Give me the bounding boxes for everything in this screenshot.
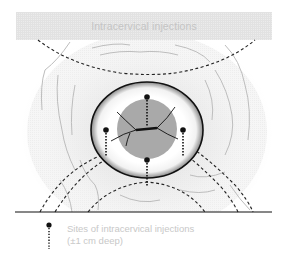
legend-line-1: Sites of intracervical injections xyxy=(67,223,194,235)
legend-marker-icon xyxy=(46,222,51,249)
legend-line-2: (±1 cm deep) xyxy=(67,235,194,247)
legend: Sites of intracervical injections (±1 cm… xyxy=(67,223,194,247)
